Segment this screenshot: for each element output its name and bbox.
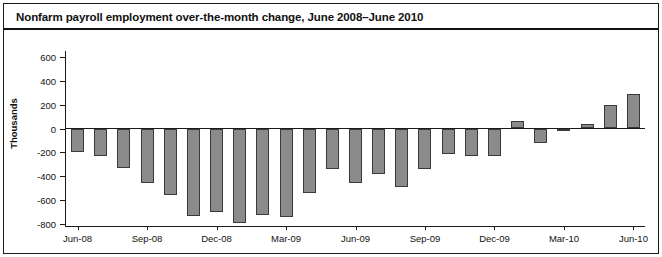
bar xyxy=(581,124,594,129)
y-tick xyxy=(60,57,66,58)
x-tick-label: Jun-09 xyxy=(341,233,370,244)
y-tick xyxy=(60,200,66,201)
bar xyxy=(604,105,617,129)
x-tick-label: Dec-09 xyxy=(479,233,510,244)
x-tick-label: Sep-09 xyxy=(410,233,441,244)
y-tick-label: -200 xyxy=(12,147,56,158)
x-tick xyxy=(286,226,287,230)
page-title: Nonfarm payroll employment over-the-mont… xyxy=(16,11,423,23)
y-tick-label: -800 xyxy=(12,219,56,230)
bar xyxy=(534,129,547,143)
chart-screenshot: Nonfarm payroll employment over-the-mont… xyxy=(0,0,662,257)
bar xyxy=(442,129,455,154)
x-tick xyxy=(494,226,495,230)
bar xyxy=(187,129,200,216)
bar xyxy=(164,129,177,196)
y-tick-label: 0 xyxy=(12,123,56,134)
y-tick xyxy=(60,81,66,82)
x-tick-label: Jun-10 xyxy=(619,233,648,244)
x-tick xyxy=(217,226,218,230)
y-tick-label: -400 xyxy=(12,171,56,182)
y-tick xyxy=(60,224,66,225)
bar xyxy=(627,94,640,129)
bar xyxy=(280,129,293,217)
bar xyxy=(488,129,501,156)
bar xyxy=(256,129,269,215)
bar xyxy=(465,129,478,156)
bar xyxy=(94,129,107,156)
x-tick-label: Dec-08 xyxy=(201,233,232,244)
x-tick xyxy=(78,226,79,230)
x-tick-label: Mar-09 xyxy=(271,233,301,244)
y-tick-label: 200 xyxy=(12,99,56,110)
y-tick xyxy=(60,176,66,177)
bar xyxy=(326,129,339,170)
y-tick xyxy=(60,105,66,106)
bar xyxy=(349,129,362,184)
x-tick xyxy=(633,226,634,230)
x-tick xyxy=(147,226,148,230)
bar xyxy=(117,129,130,168)
x-tick-label: Mar-10 xyxy=(549,233,579,244)
y-tick-label: 600 xyxy=(12,51,56,62)
y-tick xyxy=(60,152,66,153)
bar xyxy=(141,129,154,184)
bar xyxy=(511,121,524,128)
bar xyxy=(210,129,223,213)
x-tick-label: Sep-08 xyxy=(132,233,163,244)
title-bar: Nonfarm payroll employment over-the-mont… xyxy=(4,4,658,30)
bar xyxy=(372,129,385,174)
bar xyxy=(557,129,570,131)
x-tick-label: Jun-08 xyxy=(63,233,92,244)
bar xyxy=(418,129,431,170)
bar xyxy=(71,129,84,153)
x-tick xyxy=(425,226,426,230)
y-tick-label: -600 xyxy=(12,195,56,206)
bar xyxy=(233,129,246,223)
y-tick-label: 400 xyxy=(12,75,56,86)
x-tick xyxy=(356,226,357,230)
bar xyxy=(303,129,316,194)
x-tick xyxy=(564,226,565,230)
bar xyxy=(395,129,408,188)
y-tick xyxy=(60,129,66,130)
